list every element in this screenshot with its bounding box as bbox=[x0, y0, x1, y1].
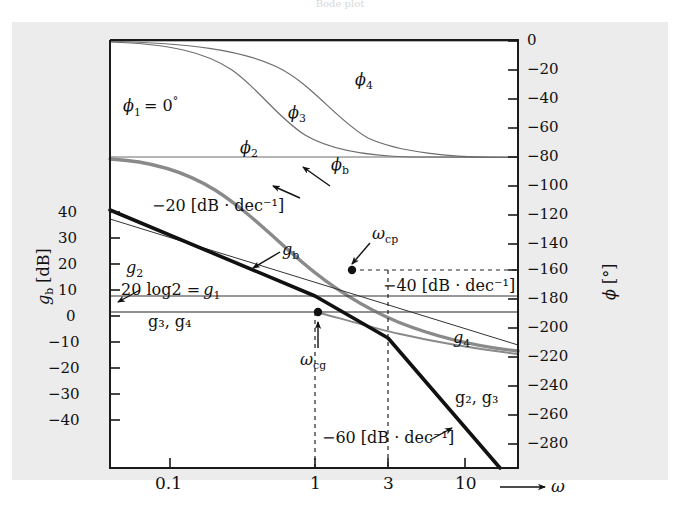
phi4-sub: 4 bbox=[366, 79, 373, 92]
left-tick-0: 0 bbox=[66, 307, 76, 325]
right-tick-n40: −40 bbox=[527, 89, 559, 107]
marker-omega-cg bbox=[314, 308, 322, 316]
phi1-sub: 1 bbox=[134, 106, 141, 119]
phib-sub: b bbox=[342, 164, 349, 177]
right-tick-n60: −60 bbox=[527, 118, 559, 136]
x-tick-1: 1 bbox=[310, 473, 321, 493]
right-tick-n260: −260 bbox=[527, 405, 568, 423]
g1-sym: g bbox=[203, 280, 213, 299]
right-tick-n80: −80 bbox=[527, 147, 559, 165]
right-tick-n240: −240 bbox=[527, 376, 568, 394]
left-tick-n30: −30 bbox=[48, 385, 80, 403]
left-axis-unit: [dB] bbox=[34, 248, 53, 282]
phi2-sub: 2 bbox=[251, 147, 258, 160]
label-omega-cp: ωcp bbox=[372, 224, 398, 246]
label-g-b: gb bbox=[282, 240, 299, 262]
right-tick-n20: −20 bbox=[527, 60, 559, 78]
right-tick-n220: −220 bbox=[527, 347, 568, 365]
phi3-sym: ϕ bbox=[288, 103, 299, 122]
left-tick-10: 10 bbox=[58, 281, 77, 299]
label-g3-g4: g₃, g₄ bbox=[148, 312, 191, 331]
label-slope-40: −40 [dB · dec⁻¹] bbox=[383, 276, 515, 295]
gb-sub: b bbox=[292, 249, 299, 262]
label-slope-60: −60 [dB · dec⁻¹] bbox=[322, 428, 454, 447]
x-tick-10: 10 bbox=[455, 473, 477, 493]
wcg-sub: cg bbox=[313, 359, 326, 372]
x-tick-0p1: 0.1 bbox=[155, 473, 182, 493]
phi2-sym: ϕ bbox=[240, 138, 251, 157]
x-tick-3: 3 bbox=[383, 473, 394, 493]
g2-sym: g bbox=[126, 258, 136, 277]
left-tick-40: 40 bbox=[58, 203, 77, 221]
label-slope-20: −20 [dB · dec⁻¹] bbox=[152, 196, 284, 215]
left-axis-label: gb [dB] bbox=[34, 248, 56, 305]
right-tick-n200: −200 bbox=[527, 318, 568, 336]
label-20log2-g1: 20 log2 = g1 bbox=[121, 280, 220, 302]
label-g4: g4 bbox=[453, 328, 470, 350]
label-phi1: ϕ1 = 0° bbox=[123, 95, 178, 119]
right-axis-label: ϕ [°] bbox=[600, 264, 619, 300]
label-phi-b: ϕb bbox=[331, 155, 349, 177]
left-tick-n20: −20 bbox=[48, 359, 80, 377]
label-omega-cg: ωcg bbox=[300, 350, 326, 372]
right-tick-n160: −160 bbox=[527, 260, 568, 278]
plot-canvas bbox=[0, 0, 683, 531]
g2-sub: 2 bbox=[136, 267, 143, 280]
right-tick-n140: −140 bbox=[527, 234, 568, 252]
bode-plot-figure: Bode plot bbox=[0, 0, 683, 531]
label-g2-g3: g₂, g₃ bbox=[455, 388, 498, 407]
left-axis-sym: g bbox=[34, 295, 53, 305]
right-tick-n180: −180 bbox=[527, 289, 568, 307]
left-tick-20: 20 bbox=[58, 255, 77, 273]
phib-sym: ϕ bbox=[331, 155, 342, 174]
right-tick-n100: −100 bbox=[527, 176, 568, 194]
wcp-sub: cp bbox=[385, 233, 398, 246]
label-phi4: ϕ4 bbox=[355, 70, 373, 92]
log2-text: 20 log2 = bbox=[121, 280, 200, 299]
wcp-sym: ω bbox=[372, 224, 385, 243]
right-tick-0: 0 bbox=[527, 31, 537, 49]
label-phi2: ϕ2 bbox=[240, 138, 258, 160]
label-g2: g2 bbox=[126, 258, 143, 280]
label-phi3: ϕ3 bbox=[288, 103, 306, 125]
left-tick-30: 30 bbox=[58, 229, 77, 247]
g4-sym: g bbox=[453, 328, 463, 347]
phi4-sym: ϕ bbox=[355, 70, 366, 89]
right-axis-unit: [°] bbox=[600, 264, 619, 284]
right-tick-n280: −280 bbox=[527, 434, 568, 452]
g4-sub: 4 bbox=[463, 337, 470, 350]
x-axis-label: ω bbox=[551, 476, 565, 496]
wcg-sym: ω bbox=[300, 350, 313, 369]
left-tick-n10: −10 bbox=[48, 333, 80, 351]
right-axis-sym: ϕ bbox=[600, 289, 619, 300]
marker-omega-cp bbox=[348, 266, 356, 274]
left-tick-n40: −40 bbox=[48, 411, 80, 429]
gb-sym: g bbox=[282, 240, 292, 259]
phi1-deg: ° bbox=[173, 95, 178, 108]
g1-sub: 1 bbox=[214, 289, 221, 302]
phi1-sym: ϕ bbox=[123, 96, 134, 115]
phi3-sub: 3 bbox=[299, 112, 306, 125]
left-axis-sub: b bbox=[43, 288, 56, 295]
phi1-eq: = 0 bbox=[144, 96, 173, 115]
right-tick-n120: −120 bbox=[527, 205, 568, 223]
